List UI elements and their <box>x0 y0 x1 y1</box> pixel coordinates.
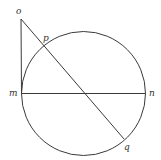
segment-om <box>21 19 22 94</box>
label-p: p <box>43 33 49 43</box>
label-o: o <box>16 6 22 16</box>
geometry-diagram: o p m n q <box>0 0 161 160</box>
label-q: q <box>124 142 130 152</box>
label-n: n <box>149 88 155 98</box>
label-m: m <box>9 88 18 98</box>
